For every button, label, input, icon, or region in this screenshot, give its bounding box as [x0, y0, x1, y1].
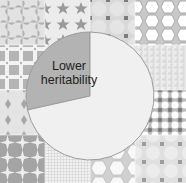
pie-chart-figure [0, 0, 186, 183]
pie [26, 32, 154, 160]
